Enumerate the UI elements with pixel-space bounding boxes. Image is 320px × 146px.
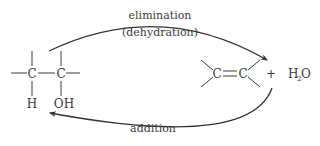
reactant-hydroxyl: OH xyxy=(54,97,74,111)
reactant-hydrogen: H xyxy=(27,97,37,111)
reactant-carbon-2: C xyxy=(56,67,65,81)
product-carbon-2: C xyxy=(238,67,247,81)
elimination-label: elimination xyxy=(129,9,192,22)
water-formula: H 2 O xyxy=(288,67,311,83)
alkene-structure: C C xyxy=(201,60,260,87)
water-oxygen: O xyxy=(301,67,311,81)
product-carbon-1: C xyxy=(212,67,221,81)
addition-arrow xyxy=(50,88,272,127)
reaction-diagram: elimination (dehydration) addition C H C… xyxy=(0,0,320,146)
plus-sign: + xyxy=(266,67,276,81)
reactant-carbon-1: C xyxy=(27,67,36,81)
alcohol-structure: C H C OH xyxy=(11,51,80,111)
dehydration-label: (dehydration) xyxy=(122,26,198,39)
addition-label: addition xyxy=(130,122,176,135)
